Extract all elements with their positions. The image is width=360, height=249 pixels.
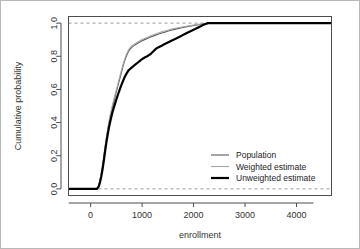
x-tick-label-2000: 2000 [184, 210, 204, 220]
x-tick-label-3000: 3000 [235, 210, 255, 220]
legend-label-0: Population [236, 150, 276, 160]
figure-container: 01000200030004000 0.00.20.40.60.81.0 enr… [0, 0, 360, 249]
x-tick-label-4000: 4000 [286, 210, 306, 220]
ecdf-chart: 01000200030004000 0.00.20.40.60.81.0 enr… [1, 1, 360, 249]
legend-label-1: Weighted estimate [236, 162, 307, 172]
x-tick-label-0: 0 [88, 210, 93, 220]
y-axis-label: Cumulative probability [13, 61, 23, 150]
x-tick-label-1000: 1000 [132, 210, 152, 220]
legend-label-2: Unweighted estimate [236, 173, 316, 183]
y-tick-label-0: 0.0 [49, 183, 59, 196]
y-tick-label-0.4: 0.4 [49, 116, 59, 129]
y-tick-label-0.6: 0.6 [49, 83, 59, 96]
y-tick-label-1: 1.0 [49, 17, 59, 30]
y-tick-label-0.2: 0.2 [49, 149, 59, 162]
y-tick-label-0.8: 0.8 [49, 50, 59, 63]
x-axis-label: enrollment [179, 230, 222, 240]
